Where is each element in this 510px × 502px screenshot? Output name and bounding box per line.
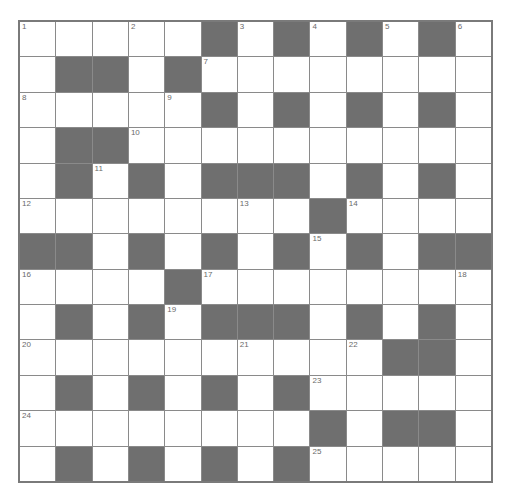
answer-cell[interactable] bbox=[56, 22, 91, 56]
answer-cell[interactable] bbox=[165, 411, 200, 445]
answer-cell[interactable] bbox=[310, 164, 345, 198]
answer-cell[interactable] bbox=[347, 376, 382, 410]
answer-cell[interactable] bbox=[383, 199, 418, 233]
answer-cell[interactable] bbox=[347, 447, 382, 481]
answer-cell[interactable] bbox=[93, 376, 128, 410]
answer-cell[interactable] bbox=[165, 376, 200, 410]
answer-cell[interactable]: 20 bbox=[20, 340, 55, 374]
answer-cell[interactable] bbox=[238, 376, 273, 410]
answer-cell[interactable] bbox=[456, 305, 491, 339]
answer-cell[interactable] bbox=[20, 376, 55, 410]
answer-cell[interactable] bbox=[165, 199, 200, 233]
answer-cell[interactable]: 18 bbox=[456, 270, 491, 304]
answer-cell[interactable] bbox=[56, 411, 91, 445]
answer-cell[interactable] bbox=[310, 93, 345, 127]
answer-cell[interactable] bbox=[456, 199, 491, 233]
answer-cell[interactable] bbox=[202, 411, 237, 445]
answer-cell[interactable] bbox=[165, 164, 200, 198]
answer-cell[interactable]: 3 bbox=[238, 22, 273, 56]
answer-cell[interactable] bbox=[20, 447, 55, 481]
answer-cell[interactable] bbox=[456, 447, 491, 481]
answer-cell[interactable] bbox=[238, 93, 273, 127]
answer-cell[interactable] bbox=[93, 93, 128, 127]
answer-cell[interactable]: 12 bbox=[20, 199, 55, 233]
answer-cell[interactable] bbox=[129, 93, 164, 127]
answer-cell[interactable] bbox=[274, 57, 309, 91]
answer-cell[interactable] bbox=[238, 411, 273, 445]
answer-cell[interactable] bbox=[165, 128, 200, 162]
answer-cell[interactable]: 14 bbox=[347, 199, 382, 233]
answer-cell[interactable] bbox=[93, 234, 128, 268]
answer-cell[interactable]: 9 bbox=[165, 93, 200, 127]
answer-cell[interactable] bbox=[129, 199, 164, 233]
answer-cell[interactable] bbox=[419, 447, 454, 481]
answer-cell[interactable] bbox=[93, 22, 128, 56]
answer-cell[interactable] bbox=[93, 447, 128, 481]
answer-cell[interactable] bbox=[93, 305, 128, 339]
answer-cell[interactable]: 15 bbox=[310, 234, 345, 268]
answer-cell[interactable] bbox=[383, 376, 418, 410]
answer-cell[interactable]: 8 bbox=[20, 93, 55, 127]
answer-cell[interactable] bbox=[274, 340, 309, 374]
answer-cell[interactable] bbox=[202, 128, 237, 162]
answer-cell[interactable] bbox=[165, 340, 200, 374]
answer-cell[interactable] bbox=[20, 128, 55, 162]
answer-cell[interactable] bbox=[456, 164, 491, 198]
answer-cell[interactable] bbox=[20, 164, 55, 198]
answer-cell[interactable] bbox=[456, 411, 491, 445]
answer-cell[interactable] bbox=[274, 199, 309, 233]
answer-cell[interactable] bbox=[310, 270, 345, 304]
answer-cell[interactable] bbox=[56, 340, 91, 374]
answer-cell[interactable]: 16 bbox=[20, 270, 55, 304]
answer-cell[interactable]: 10 bbox=[129, 128, 164, 162]
answer-cell[interactable] bbox=[419, 270, 454, 304]
answer-cell[interactable] bbox=[274, 270, 309, 304]
answer-cell[interactable] bbox=[347, 57, 382, 91]
answer-cell[interactable] bbox=[93, 411, 128, 445]
answer-cell[interactable] bbox=[238, 128, 273, 162]
answer-cell[interactable]: 6 bbox=[456, 22, 491, 56]
answer-cell[interactable] bbox=[93, 340, 128, 374]
answer-cell[interactable]: 25 bbox=[310, 447, 345, 481]
answer-cell[interactable] bbox=[93, 199, 128, 233]
answer-cell[interactable]: 1 bbox=[20, 22, 55, 56]
answer-cell[interactable]: 2 bbox=[129, 22, 164, 56]
answer-cell[interactable] bbox=[383, 447, 418, 481]
answer-cell[interactable] bbox=[456, 376, 491, 410]
answer-cell[interactable] bbox=[56, 199, 91, 233]
answer-cell[interactable] bbox=[419, 199, 454, 233]
answer-cell[interactable] bbox=[20, 305, 55, 339]
answer-cell[interactable] bbox=[129, 340, 164, 374]
answer-cell[interactable]: 7 bbox=[202, 57, 237, 91]
answer-cell[interactable]: 5 bbox=[383, 22, 418, 56]
answer-cell[interactable] bbox=[383, 305, 418, 339]
answer-cell[interactable] bbox=[347, 411, 382, 445]
answer-cell[interactable] bbox=[419, 128, 454, 162]
answer-cell[interactable] bbox=[274, 128, 309, 162]
answer-cell[interactable] bbox=[129, 270, 164, 304]
answer-cell[interactable]: 17 bbox=[202, 270, 237, 304]
answer-cell[interactable] bbox=[56, 270, 91, 304]
answer-cell[interactable] bbox=[238, 447, 273, 481]
answer-cell[interactable] bbox=[165, 447, 200, 481]
answer-cell[interactable] bbox=[383, 93, 418, 127]
answer-cell[interactable] bbox=[456, 93, 491, 127]
answer-cell[interactable] bbox=[456, 57, 491, 91]
answer-cell[interactable] bbox=[347, 270, 382, 304]
answer-cell[interactable] bbox=[456, 128, 491, 162]
answer-cell[interactable]: 4 bbox=[310, 22, 345, 56]
answer-cell[interactable] bbox=[238, 57, 273, 91]
answer-cell[interactable] bbox=[56, 93, 91, 127]
answer-cell[interactable] bbox=[310, 340, 345, 374]
answer-cell[interactable] bbox=[383, 234, 418, 268]
answer-cell[interactable]: 11 bbox=[93, 164, 128, 198]
answer-cell[interactable]: 22 bbox=[347, 340, 382, 374]
answer-cell[interactable] bbox=[383, 57, 418, 91]
answer-cell[interactable] bbox=[165, 234, 200, 268]
answer-cell[interactable]: 13 bbox=[238, 199, 273, 233]
answer-cell[interactable]: 21 bbox=[238, 340, 273, 374]
answer-cell[interactable] bbox=[274, 411, 309, 445]
answer-cell[interactable] bbox=[129, 57, 164, 91]
answer-cell[interactable] bbox=[310, 305, 345, 339]
answer-cell[interactable] bbox=[310, 128, 345, 162]
